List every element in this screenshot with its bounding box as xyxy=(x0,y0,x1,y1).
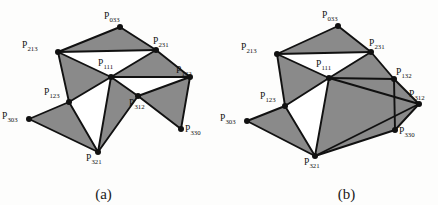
figure-root: P033P213P231P111P132P123P312P303P330P321… xyxy=(0,0,438,205)
vertex-label-P321: P321 xyxy=(304,158,320,170)
vertex-label-P111: P111 xyxy=(316,60,331,72)
vertex-label-P303: P303 xyxy=(2,112,18,124)
vertex-label-P123: P123 xyxy=(260,92,276,104)
vertex-label-P231: P231 xyxy=(369,39,385,51)
vertex-label-P132: P132 xyxy=(176,66,192,78)
panel-b-caption: (b) xyxy=(219,186,438,203)
vertex-label-P132: P132 xyxy=(396,68,412,80)
vertex-P033[interactable] xyxy=(117,24,123,30)
vertex-P330[interactable] xyxy=(178,126,184,132)
vertex-P303[interactable] xyxy=(244,118,250,124)
vertex-label-P312: P312 xyxy=(409,90,425,102)
vertex-P303[interactable] xyxy=(26,116,32,122)
vertex-label-P213: P213 xyxy=(241,43,257,55)
triangulation-diagram-a xyxy=(0,0,219,185)
triangulation-diagram-b xyxy=(219,0,438,185)
vertex-P330[interactable] xyxy=(392,127,398,133)
vertex-P111[interactable] xyxy=(326,75,332,81)
vertex-P123[interactable] xyxy=(66,99,72,105)
vertex-label-P303: P303 xyxy=(220,114,236,126)
vertex-label-P213: P213 xyxy=(22,41,38,53)
panel-a: P033P213P231P111P132P123P312P303P330P321… xyxy=(0,0,219,205)
vertex-label-P123: P123 xyxy=(44,88,60,100)
panel-b: P033P213P231P111P132P123P312P303P330P321… xyxy=(219,0,438,205)
vertex-label-P330: P330 xyxy=(399,127,415,139)
edge-P111-P132 xyxy=(329,78,394,79)
vertex-label-P330: P330 xyxy=(185,125,201,137)
vertex-label-P231: P231 xyxy=(153,37,169,49)
edge-P132-P330 xyxy=(394,79,395,130)
vertex-P213[interactable] xyxy=(55,49,61,55)
vertex-label-P321: P321 xyxy=(86,154,102,166)
vertex-P213[interactable] xyxy=(274,51,280,57)
panel-a-caption: (a) xyxy=(0,186,219,203)
vertex-label-P312: P312 xyxy=(129,99,145,111)
vertex-P111[interactable] xyxy=(108,74,114,80)
vertex-P033[interactable] xyxy=(335,23,341,29)
vertex-label-P033: P033 xyxy=(322,11,338,23)
vertex-label-P033: P033 xyxy=(104,12,120,24)
vertex-P123[interactable] xyxy=(282,103,288,109)
vertex-label-P111: P111 xyxy=(98,59,113,71)
vertex-P312[interactable] xyxy=(416,101,422,107)
